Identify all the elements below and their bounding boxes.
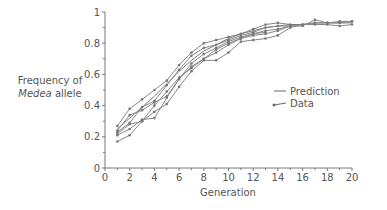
data-point-marker <box>190 70 193 73</box>
data-point-marker <box>190 54 193 57</box>
data-point-marker <box>215 47 218 50</box>
data-point-marker <box>190 67 193 70</box>
x-tick-label: 12 <box>247 172 260 183</box>
data-point-marker <box>203 47 206 50</box>
data-point-marker <box>277 25 280 28</box>
data-point-marker <box>351 20 354 23</box>
data-point-marker <box>203 42 206 45</box>
data-point-marker <box>338 25 341 28</box>
data-point-marker <box>128 123 131 126</box>
x-tick-label: 0 <box>102 172 108 183</box>
data-point-marker <box>116 140 119 143</box>
data-point-marker <box>264 26 267 29</box>
data-point-marker <box>165 90 168 93</box>
data-point-marker <box>165 95 168 98</box>
data-point-marker <box>215 59 218 62</box>
data-point-marker <box>215 51 218 54</box>
data-point-marker <box>128 128 131 131</box>
data-point-marker <box>178 68 181 71</box>
data-point-marker <box>264 31 267 34</box>
data-point-marker <box>227 51 230 54</box>
data-point-marker <box>277 34 280 37</box>
data-point-marker <box>338 22 341 25</box>
data-point-marker <box>227 40 230 43</box>
x-tick-label: 4 <box>151 172 157 183</box>
legend-data-marker <box>273 104 276 107</box>
data-point-marker <box>165 79 168 82</box>
legend-data-swatch <box>274 103 286 105</box>
legend-prediction-label: Prediction <box>290 86 340 97</box>
data-series-line <box>117 32 265 130</box>
data-point-marker <box>178 78 181 81</box>
data-point-marker <box>116 125 119 128</box>
data-point-marker <box>128 134 131 137</box>
data-point-marker <box>128 114 131 117</box>
data-point-marker <box>277 22 280 25</box>
data-point-marker <box>153 111 156 114</box>
x-tick-label: 16 <box>296 172 309 183</box>
x-tick-label: 2 <box>127 172 133 183</box>
data-point-marker <box>153 101 156 104</box>
legend-data-label: Data <box>290 98 314 109</box>
data-point-marker <box>326 22 329 25</box>
data-point-marker <box>141 98 144 101</box>
y-tick-label: 0.6 <box>84 69 100 80</box>
legend: Prediction Data <box>273 86 340 109</box>
data-point-marker <box>227 43 230 46</box>
data-point-marker <box>289 26 292 29</box>
x-axis-label: Generation <box>200 187 256 198</box>
data-point-marker <box>203 53 206 56</box>
data-point-marker <box>264 37 267 40</box>
data-series-line <box>117 20 352 135</box>
data-point-marker <box>252 28 255 31</box>
x-tick-label: 6 <box>176 172 182 183</box>
x-tick-label: 8 <box>201 172 207 183</box>
data-point-marker <box>240 40 243 43</box>
data-point-marker <box>141 120 144 123</box>
data-point-marker <box>116 132 119 135</box>
y-tick-label: 0 <box>94 163 100 174</box>
data-point-marker <box>215 43 218 46</box>
data-series-line <box>117 25 352 142</box>
data-point-marker <box>252 39 255 42</box>
data-point-marker <box>314 19 317 22</box>
data-point-marker <box>190 62 193 65</box>
x-tick-label: 18 <box>321 172 334 183</box>
x-tick-label: 20 <box>346 172 359 183</box>
data-point-marker <box>351 23 354 26</box>
data-point-marker <box>227 36 230 39</box>
data-point-marker <box>153 89 156 92</box>
data-point-marker <box>190 51 193 54</box>
x-tick-label: 10 <box>222 172 235 183</box>
data-point-marker <box>264 23 267 26</box>
data-point-marker <box>128 107 131 110</box>
data-point-marker <box>116 129 119 132</box>
x-tick-label: 14 <box>272 172 285 183</box>
series-group <box>116 19 353 143</box>
line-chart: 0246810121416182000.20.40.60.81 Predicti… <box>0 0 387 210</box>
data-point-marker <box>141 106 144 109</box>
y-tick-label: 1 <box>94 7 100 18</box>
data-point-marker <box>165 84 168 87</box>
y-tick-label: 0.4 <box>84 100 100 111</box>
y-tick-label: 0.2 <box>84 131 100 142</box>
data-point-marker <box>240 36 243 39</box>
y-tick-label: 0.8 <box>84 38 100 49</box>
data-point-marker <box>252 33 255 36</box>
data-point-marker <box>178 86 181 89</box>
data-point-marker <box>153 104 156 107</box>
data-point-marker <box>277 28 280 31</box>
data-point-marker <box>141 109 144 112</box>
data-point-marker <box>165 103 168 106</box>
data-point-marker <box>301 23 304 26</box>
data-point-marker <box>178 64 181 67</box>
data-point-marker <box>314 22 317 25</box>
data-point-marker <box>203 59 206 62</box>
data-point-marker <box>153 117 156 120</box>
data-point-marker <box>215 39 218 42</box>
